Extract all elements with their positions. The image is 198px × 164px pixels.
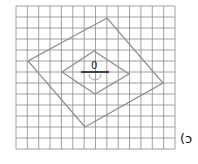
grid bbox=[16, 6, 175, 149]
rotation-arc bbox=[89, 74, 101, 80]
center-label: 0 bbox=[91, 60, 97, 71]
figure-label: (ɔ bbox=[180, 131, 192, 146]
grid-diagram: 0 bbox=[0, 0, 198, 164]
